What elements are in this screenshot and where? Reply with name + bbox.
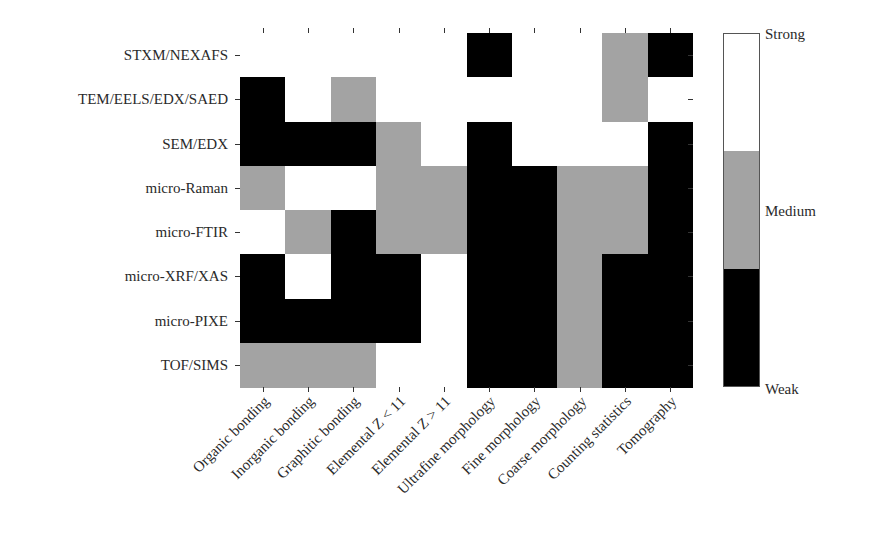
y-tick xyxy=(235,144,240,145)
heatmap-cell xyxy=(331,343,377,388)
heatmap-cell xyxy=(512,33,558,78)
heatmap-cell xyxy=(240,210,286,255)
x-tick xyxy=(625,387,626,392)
y-axis-label: STXM/NEXAFS xyxy=(124,47,228,64)
heatmap-cell xyxy=(421,343,467,388)
y-axis-label: TOF/SIMS xyxy=(161,356,228,373)
heatmap-cell xyxy=(557,33,603,78)
x-tick xyxy=(489,28,490,33)
heatmap-cell xyxy=(240,254,286,299)
y-tick xyxy=(688,276,693,277)
y-axis-label: TEM/EELS/EDX/SAED xyxy=(78,91,228,108)
heatmap-cell xyxy=(421,254,467,299)
y-tick xyxy=(235,321,240,322)
y-tick xyxy=(235,188,240,189)
y-tick xyxy=(688,55,693,56)
x-tick xyxy=(444,387,445,392)
heatmap-cell xyxy=(240,343,286,388)
heatmap-cell xyxy=(467,122,513,167)
x-tick xyxy=(399,387,400,392)
y-tick xyxy=(688,321,693,322)
heatmap-cell xyxy=(648,122,694,167)
heatmap-cell xyxy=(421,77,467,122)
heatmap-cell xyxy=(331,210,377,255)
y-axis-label: SEM/EDX xyxy=(162,135,228,152)
y-axis-label: micro-XRF/XAS xyxy=(125,268,228,285)
heatmap-cell xyxy=(240,77,286,122)
heatmap-cell xyxy=(648,166,694,211)
heatmap-cell xyxy=(648,299,694,344)
x-tick xyxy=(308,387,309,392)
x-tick xyxy=(625,28,626,33)
y-tick xyxy=(688,144,693,145)
heatmap-cell xyxy=(512,166,558,211)
y-tick xyxy=(688,365,693,366)
x-axis-label: Elemental Z > 11 xyxy=(368,393,454,479)
heatmap-plot-area xyxy=(240,33,693,387)
heatmap-cell xyxy=(376,210,422,255)
heatmap-cell xyxy=(421,210,467,255)
heatmap-cell xyxy=(285,254,331,299)
heatmap-cell xyxy=(512,254,558,299)
x-tick xyxy=(580,28,581,33)
heatmap-cell xyxy=(602,254,648,299)
heatmap-cell xyxy=(602,166,648,211)
heatmap-cell xyxy=(602,33,648,78)
heatmap-cell xyxy=(557,343,603,388)
heatmap-cell xyxy=(285,299,331,344)
heatmap-cell xyxy=(467,77,513,122)
heatmap-cell xyxy=(376,122,422,167)
heatmap-cell xyxy=(648,254,694,299)
heatmap-cell xyxy=(602,210,648,255)
x-tick xyxy=(580,387,581,392)
heatmap-cell xyxy=(331,254,377,299)
heatmap-cell xyxy=(376,166,422,211)
x-axis-label: Elemental Z < 11 xyxy=(323,393,409,479)
x-tick xyxy=(263,28,264,33)
y-tick xyxy=(235,276,240,277)
colorbar-weak-segment xyxy=(724,269,759,386)
x-tick xyxy=(489,387,490,392)
heatmap-cell xyxy=(285,33,331,78)
x-tick xyxy=(534,387,535,392)
y-tick xyxy=(235,99,240,100)
x-tick xyxy=(399,28,400,33)
heatmap-cell xyxy=(376,77,422,122)
x-axis-label: Graphitic bonding xyxy=(274,393,364,483)
heatmap-cell xyxy=(512,210,558,255)
heatmap-cell xyxy=(602,299,648,344)
heatmap-cell xyxy=(240,122,286,167)
y-axis-label: micro-PIXE xyxy=(155,312,228,329)
heatmap-cell xyxy=(376,299,422,344)
heatmap-cell xyxy=(467,254,513,299)
heatmap-cell xyxy=(512,299,558,344)
heatmap-cell xyxy=(648,343,694,388)
heatmap-cell xyxy=(285,77,331,122)
x-tick xyxy=(308,28,309,33)
heatmap-cell xyxy=(376,33,422,78)
x-tick xyxy=(353,387,354,392)
heatmap-cell xyxy=(557,122,603,167)
heatmap-cell xyxy=(331,122,377,167)
heatmap-cell xyxy=(285,122,331,167)
colorbar-label-strong: Strong xyxy=(765,26,805,43)
colorbar xyxy=(723,33,760,387)
heatmap-cell xyxy=(557,77,603,122)
y-tick xyxy=(235,365,240,366)
heatmap-cell xyxy=(421,33,467,78)
heatmap-cell xyxy=(602,122,648,167)
x-axis-label: Fine morphology xyxy=(459,393,544,478)
heatmap-cell xyxy=(467,210,513,255)
heatmap-cell xyxy=(331,33,377,78)
heatmap-cell xyxy=(467,299,513,344)
x-tick xyxy=(444,28,445,33)
heatmap-cell xyxy=(376,343,422,388)
heatmap-cell xyxy=(240,33,286,78)
heatmap-cell xyxy=(557,254,603,299)
heatmap-cell xyxy=(512,122,558,167)
y-tick xyxy=(688,188,693,189)
heatmap-cell xyxy=(648,33,694,78)
heatmap-cell xyxy=(331,299,377,344)
y-axis-label: micro-Raman xyxy=(146,179,228,196)
heatmap-cell xyxy=(421,122,467,167)
